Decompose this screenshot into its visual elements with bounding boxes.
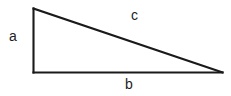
triangle-shape	[0, 0, 231, 96]
side-label-b: b	[125, 77, 133, 91]
side-label-a: a	[9, 29, 17, 43]
hypotenuse-c	[34, 9, 223, 73]
triangle-figure: a c b	[0, 0, 231, 96]
side-label-c: c	[131, 8, 138, 22]
